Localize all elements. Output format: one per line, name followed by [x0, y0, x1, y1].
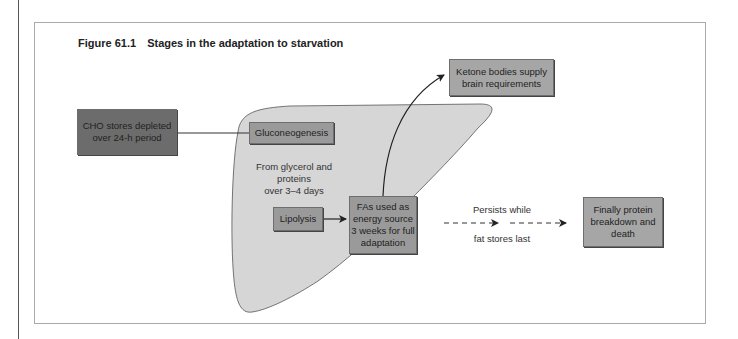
gluco-note-line1: From glycerol and — [244, 161, 344, 173]
gluco-note-line2: proteins — [244, 173, 344, 185]
ketone-line2: brain requirements — [456, 78, 547, 90]
gluconeogenesis-label: Gluconeogenesis — [255, 127, 328, 139]
fas-energy-box: FAs used as energy source 3 weeks for fu… — [349, 196, 417, 254]
lipolysis-box: Lipolysis — [273, 207, 323, 231]
diagram-canvas — [0, 0, 738, 339]
gluco-note-line3: over 3–4 days — [244, 185, 344, 197]
ketone-bodies-box: Ketone bodies supply brain requirements — [449, 59, 554, 96]
cho-depleted-box: CHO stores depleted over 24-h period — [77, 109, 177, 155]
cho-line1: CHO stores depleted — [83, 120, 172, 132]
final-line3: death — [591, 228, 656, 240]
persist-label-bottom: fat stores last — [462, 233, 542, 245]
fas-line4: adaptation — [351, 237, 414, 249]
final-line2: breakdown and — [591, 216, 656, 228]
gluconeogenesis-note: From glycerol and proteins over 3–4 days — [244, 161, 344, 197]
fas-line3: 3 weeks for full — [351, 225, 414, 237]
fas-line1: FAs used as — [351, 201, 414, 213]
fas-line2: energy source — [351, 213, 414, 225]
lipolysis-label: Lipolysis — [280, 213, 316, 225]
final-line1: Finally protein — [591, 204, 656, 216]
persist-label-top: Persists while — [462, 204, 542, 216]
ketone-line1: Ketone bodies supply — [456, 66, 547, 78]
gluconeogenesis-box: Gluconeogenesis — [249, 122, 334, 144]
cho-line2: over 24-h period — [83, 132, 172, 144]
final-death-box: Finally protein breakdown and death — [583, 197, 663, 247]
